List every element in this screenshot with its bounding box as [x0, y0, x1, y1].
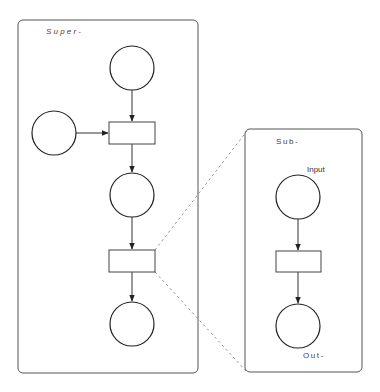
input-place	[276, 175, 320, 219]
lower-transition	[109, 250, 155, 272]
top-place	[110, 46, 154, 90]
bottom-place	[110, 302, 154, 346]
zoom-line-bottom	[155, 272, 246, 371]
upper-transition	[109, 122, 155, 144]
input-label: Input	[307, 165, 326, 174]
output-place	[276, 304, 320, 348]
left-place	[32, 111, 76, 155]
middle-place	[110, 173, 154, 217]
super-net-label: Super-	[46, 27, 83, 36]
zoom-line-top	[155, 131, 247, 250]
petri-net-diagram: Super- Sub- Input Out-	[0, 0, 380, 392]
sub-transition	[276, 251, 321, 272]
sub-net: Sub- Input Out-	[245, 129, 362, 372]
super-net: Super-	[18, 20, 198, 373]
sub-net-label: Sub-	[276, 137, 299, 146]
super-net-boundary	[18, 20, 198, 373]
output-label: Out-	[303, 351, 325, 360]
